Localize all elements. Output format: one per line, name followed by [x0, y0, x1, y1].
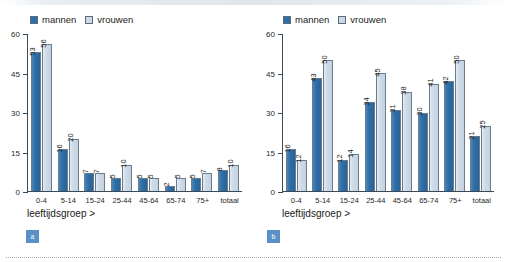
- bar-mannen-5-14[interactable]: 43: [312, 78, 322, 191]
- bar-vrouwen-65-74[interactable]: 41: [429, 84, 439, 191]
- bar-value-label: 53: [28, 47, 36, 55]
- legend-label-mannen-a: mannen: [42, 14, 76, 25]
- bar-vrouwen-25-44[interactable]: 45: [376, 73, 386, 191]
- bar-value-label: 10: [120, 160, 128, 168]
- x-tick-label-65-74: 65-74: [416, 196, 443, 205]
- bar-vrouwen-25-44[interactable]: 10: [122, 165, 132, 191]
- bar-value-label: 5: [173, 175, 181, 179]
- x-axis-a: [27, 191, 242, 192]
- x-tick-label-75+: 75+: [189, 196, 216, 205]
- bar-vrouwen-75+[interactable]: 50: [455, 60, 465, 191]
- men-swatch-icon: [30, 16, 38, 24]
- bar-value-label: 5: [109, 175, 117, 179]
- bar-value-label: 8: [216, 167, 224, 171]
- x-tick-label-75+: 75+: [442, 196, 469, 205]
- legend-item-vrouwen-a: vrouwen: [85, 14, 133, 25]
- bar-vrouwen-0-4[interactable]: 56: [42, 44, 52, 191]
- bar-value-label: 50: [321, 55, 329, 63]
- y-tick-label-b-15: 15: [266, 148, 275, 157]
- panel-badge-b: b: [267, 230, 280, 243]
- bar-group-container-a: 5356162077510552557810: [28, 34, 242, 191]
- bar-group: 25: [165, 34, 186, 191]
- page-top-band: [0, 0, 507, 5]
- bar-vrouwen-75+[interactable]: 7: [202, 173, 212, 191]
- figure-b: mannen vrouwen 015304560 161243501214344…: [255, 8, 507, 254]
- x-tick-label-5-14: 5-14: [55, 196, 82, 205]
- bar-mannen-65-74[interactable]: 30: [418, 113, 428, 192]
- x-tick-label-65-74: 65-74: [162, 196, 189, 205]
- legend-item-mannen-a: mannen: [30, 14, 76, 25]
- bar-value-label: 7: [82, 170, 90, 174]
- bar-vrouwen-45-64[interactable]: 5: [149, 178, 159, 191]
- bar-mannen-25-44[interactable]: 5: [111, 178, 121, 191]
- bar-value-label: 16: [283, 144, 291, 152]
- bar-value-label: 12: [294, 154, 302, 162]
- bar-mannen-75+[interactable]: 5: [191, 178, 201, 191]
- bar-mannen-45-64[interactable]: 5: [138, 178, 148, 191]
- bar-mannen-15-24[interactable]: 12: [338, 160, 348, 191]
- bar-value-label: 56: [39, 39, 47, 47]
- bar-group: 3445: [365, 34, 386, 191]
- women-swatch-icon: [85, 16, 93, 24]
- bar-group-container-b: 16124350121434453138304142502125: [283, 34, 494, 191]
- bar-value-label: 38: [400, 86, 408, 94]
- bar-mannen-45-64[interactable]: 31: [391, 110, 401, 191]
- bar-value-label: 41: [426, 79, 434, 87]
- legend-item-mannen-b: mannen: [283, 14, 329, 25]
- bar-value-label: 5: [146, 175, 154, 179]
- bar-group: 1612: [286, 34, 307, 191]
- bar-value-label: 25: [479, 120, 487, 128]
- bar-value-label: 31: [389, 105, 397, 113]
- legend-b: mannen vrouwen: [283, 14, 386, 25]
- bar-value-label: 7: [200, 170, 208, 174]
- bar-mannen-65-74[interactable]: 2: [165, 186, 175, 191]
- bar-group: 57: [191, 34, 212, 191]
- x-tick-label-5-14: 5-14: [310, 196, 337, 205]
- bar-mannen-5-14[interactable]: 16: [58, 149, 68, 191]
- page-bottom-divider: [6, 257, 501, 259]
- figure-pair-container: mannen vrouwen 015304560 535616207751055…: [0, 8, 507, 254]
- y-tick-label-b-45: 45: [266, 69, 275, 78]
- x-axis-title-b: leeftijdsgroep >: [282, 208, 350, 219]
- bar-mannen-15-24[interactable]: 7: [84, 173, 94, 191]
- plot-area-a: 015304560 5356162077510552557810: [27, 34, 242, 192]
- bar-group: 4250: [444, 34, 465, 191]
- bar-mannen-75+[interactable]: 42: [444, 81, 454, 191]
- bar-group: 810: [218, 34, 239, 191]
- women-swatch-icon: [338, 16, 346, 24]
- bar-group: 4350: [312, 34, 333, 191]
- bar-value-label: 16: [55, 144, 63, 152]
- bar-vrouwen-65-74[interactable]: 5: [176, 178, 186, 191]
- bar-mannen-25-44[interactable]: 34: [365, 102, 375, 191]
- bar-mannen-totaal[interactable]: 8: [218, 170, 228, 191]
- x-tick-label-45-64: 45-64: [136, 196, 163, 205]
- x-tick-label-totaal: totaal: [469, 196, 496, 205]
- bar-vrouwen-15-24[interactable]: 14: [349, 154, 359, 191]
- y-tick-b-0: [278, 192, 283, 193]
- bar-group: 3138: [391, 34, 412, 191]
- bar-value-label: 45: [373, 68, 381, 76]
- bar-vrouwen-5-14[interactable]: 20: [69, 139, 79, 191]
- y-tick-label-a-15: 15: [11, 148, 20, 157]
- bar-vrouwen-45-64[interactable]: 38: [402, 92, 412, 191]
- x-axis-b: [282, 191, 494, 192]
- legend-label-mannen-b: mannen: [295, 14, 329, 25]
- x-tick-label-0-4: 0-4: [28, 196, 55, 205]
- bar-vrouwen-5-14[interactable]: 50: [323, 60, 333, 191]
- bar-vrouwen-totaal[interactable]: 25: [481, 126, 491, 191]
- bar-group: 3041: [418, 34, 439, 191]
- bar-vrouwen-15-24[interactable]: 7: [95, 173, 105, 191]
- bar-vrouwen-0-4[interactable]: 12: [297, 160, 307, 191]
- bar-mannen-totaal[interactable]: 21: [470, 136, 480, 191]
- bar-value-label: 14: [347, 149, 355, 157]
- bar-group: 2125: [470, 34, 491, 191]
- bar-value-label: 5: [189, 175, 197, 179]
- bar-value-label: 43: [310, 73, 318, 81]
- bar-group: 55: [138, 34, 159, 191]
- bar-group: 510: [111, 34, 132, 191]
- x-tick-labels-b: 0-45-1415-2425-4445-6465-7475+totaal: [283, 196, 495, 205]
- bar-mannen-0-4[interactable]: 53: [31, 52, 41, 191]
- bar-vrouwen-totaal[interactable]: 10: [229, 165, 239, 191]
- x-tick-labels-a: 0-45-1415-2425-4445-6465-7475+totaal: [28, 196, 243, 205]
- y-tick-label-a-0: 0: [16, 188, 20, 197]
